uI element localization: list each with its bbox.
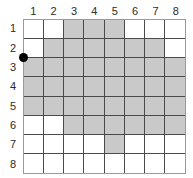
grid-cell[interactable]	[24, 97, 44, 116]
grid-cell[interactable]	[145, 58, 165, 77]
grid-cell[interactable]	[105, 135, 125, 154]
grid-cell[interactable]	[24, 135, 44, 154]
grid-cell[interactable]	[125, 116, 145, 135]
grid-cell[interactable]	[125, 20, 145, 39]
grid-cell[interactable]	[44, 20, 64, 39]
grid-cell[interactable]	[145, 154, 165, 173]
start-point-marker-icon	[19, 53, 28, 62]
grid-cell[interactable]	[84, 77, 104, 96]
column-header-6: 6	[125, 3, 145, 19]
grid-cell[interactable]	[125, 154, 145, 173]
grid-cell[interactable]	[64, 116, 84, 135]
grid-cell[interactable]	[145, 97, 165, 116]
grid-figure: 12345678 12345678	[0, 0, 193, 178]
column-header-2: 2	[43, 3, 63, 19]
grid-cell[interactable]	[145, 39, 165, 58]
column-header-8: 8	[166, 3, 186, 19]
row-header-5: 5	[4, 97, 22, 116]
row-header-4: 4	[4, 77, 22, 96]
grid-cell[interactable]	[44, 39, 64, 58]
grid-cell[interactable]	[64, 58, 84, 77]
grid-cell[interactable]	[84, 154, 104, 173]
column-header-7: 7	[145, 3, 165, 19]
grid-cell[interactable]	[125, 135, 145, 154]
row-header-column: 12345678	[4, 19, 22, 174]
grid-cell[interactable]	[84, 97, 104, 116]
grid-cell[interactable]	[84, 20, 104, 39]
grid-cell[interactable]	[44, 58, 64, 77]
column-header-row: 12345678	[23, 3, 186, 19]
grid-cell[interactable]	[44, 77, 64, 96]
grid-cell[interactable]	[44, 116, 64, 135]
grid-cell[interactable]	[64, 77, 84, 96]
grid-cell[interactable]	[165, 77, 185, 96]
grid-cell[interactable]	[105, 97, 125, 116]
grid-cell[interactable]	[105, 39, 125, 58]
grid-cell[interactable]	[125, 97, 145, 116]
grid-cell[interactable]	[125, 39, 145, 58]
grid-cell[interactable]	[24, 20, 44, 39]
grid-cell[interactable]	[44, 97, 64, 116]
grid-cell[interactable]	[84, 116, 104, 135]
grid-cell[interactable]	[24, 154, 44, 173]
grid-cell[interactable]	[64, 20, 84, 39]
grid-cell[interactable]	[165, 97, 185, 116]
grid-cell[interactable]	[165, 20, 185, 39]
grid-cell[interactable]	[145, 116, 165, 135]
grid-cell[interactable]	[125, 77, 145, 96]
row-header-8: 8	[4, 155, 22, 174]
column-header-3: 3	[64, 3, 84, 19]
grid-cell[interactable]	[145, 135, 165, 154]
grid-cell[interactable]	[84, 135, 104, 154]
column-header-5: 5	[105, 3, 125, 19]
row-header-7: 7	[4, 135, 22, 154]
grid-cell[interactable]	[105, 77, 125, 96]
grid-cell[interactable]	[165, 116, 185, 135]
grid-cell[interactable]	[24, 58, 44, 77]
grid-cell[interactable]	[145, 77, 165, 96]
grid-cell[interactable]	[105, 20, 125, 39]
grid-cell[interactable]	[64, 39, 84, 58]
grid-cell[interactable]	[64, 135, 84, 154]
column-header-4: 4	[84, 3, 104, 19]
grid-cell[interactable]	[64, 97, 84, 116]
grid-cell[interactable]	[165, 154, 185, 173]
grid-cell[interactable]	[165, 58, 185, 77]
grid-cell[interactable]	[44, 154, 64, 173]
grid-cell[interactable]	[84, 39, 104, 58]
grid-cell[interactable]	[64, 154, 84, 173]
grid-cell[interactable]	[24, 116, 44, 135]
grid-cell[interactable]	[125, 58, 145, 77]
row-header-6: 6	[4, 116, 22, 135]
grid-cell[interactable]	[84, 58, 104, 77]
column-header-1: 1	[23, 3, 43, 19]
grid-cell[interactable]	[44, 135, 64, 154]
grid-cell[interactable]	[105, 116, 125, 135]
grid-cell[interactable]	[24, 77, 44, 96]
grid-cell[interactable]	[165, 39, 185, 58]
grid-cell[interactable]	[105, 154, 125, 173]
grid-cell[interactable]	[105, 58, 125, 77]
row-header-1: 1	[4, 19, 22, 38]
cell-grid[interactable]	[23, 19, 186, 174]
grid-cell[interactable]	[165, 135, 185, 154]
grid-cell[interactable]	[145, 20, 165, 39]
